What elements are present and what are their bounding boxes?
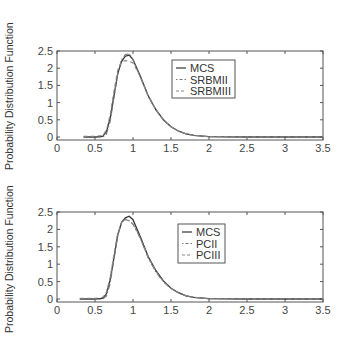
- x-tick-label: 0: [54, 304, 60, 316]
- legend-label: MCS: [196, 226, 220, 238]
- y-tick-label: 2: [47, 223, 53, 235]
- bottom-chart-plot: 00.511.522.533.500.511.522.5MCSPCIIPCIII: [0, 0, 349, 350]
- legend-label: PCII: [196, 238, 217, 250]
- legend-label: PCIII: [196, 249, 220, 261]
- x-tick-label: 3.5: [315, 304, 330, 316]
- y-tick-label: 0.5: [38, 276, 53, 288]
- x-tick-label: 1.5: [163, 304, 178, 316]
- y-tick-label: 1: [47, 258, 53, 270]
- x-tick-label: 2.5: [239, 304, 254, 316]
- x-tick-label: 0.5: [87, 304, 102, 316]
- y-tick-label: 0: [47, 293, 53, 305]
- y-tick-label: 1.5: [38, 241, 53, 253]
- y-tick-label: 2.5: [38, 206, 53, 218]
- bottom-chart-panel: Probability Distribution Function 00.511…: [0, 0, 349, 175]
- x-tick-label: 2: [206, 304, 212, 316]
- x-tick-label: 1: [130, 304, 136, 316]
- x-tick-label: 3: [282, 304, 288, 316]
